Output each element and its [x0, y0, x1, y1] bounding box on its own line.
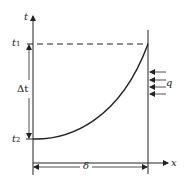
delta-t-label: Δt — [17, 84, 28, 94]
t1-label: t1 — [12, 38, 21, 48]
t2-label: t2 — [12, 134, 21, 144]
thickness-label: δ — [83, 161, 89, 171]
heat-flux-label: q — [166, 78, 172, 88]
t-axis-label: t — [24, 12, 28, 22]
x-axis-label: x — [171, 158, 177, 168]
temperature-profile-diagram: t x t1 t2 Δt δ q — [0, 0, 188, 186]
temperature-curve — [33, 44, 148, 139]
